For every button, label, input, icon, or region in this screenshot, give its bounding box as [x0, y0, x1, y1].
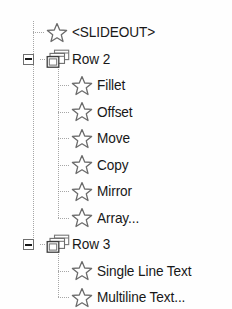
tree-row-label: Multiline Text... — [97, 289, 185, 305]
tree-elbow — [58, 165, 70, 166]
tree-elbow — [40, 244, 45, 245]
tree-elbow — [58, 191, 70, 192]
tree-row-label: Mirror — [97, 183, 132, 199]
tree-elbow — [58, 297, 70, 298]
tree-row-label: <SLIDEOUT> — [72, 24, 155, 40]
minus-box-icon[interactable] — [23, 54, 34, 65]
tree-elbow — [58, 218, 70, 219]
tree-row-label: Offset — [97, 104, 133, 120]
minus-box-icon[interactable] — [23, 239, 34, 250]
tree-row-label: Move — [97, 130, 130, 146]
star-icon — [71, 128, 93, 149]
tree-row-label: Row 3 — [72, 236, 110, 252]
folder-window-icon — [46, 49, 70, 69]
tree-row-label: Copy — [97, 157, 128, 173]
tree-elbow — [58, 138, 70, 139]
minus-glyph — [25, 244, 32, 246]
star-icon — [71, 287, 93, 308]
folder-window-icon — [46, 234, 70, 254]
star-icon — [71, 75, 93, 96]
tree-elbow — [58, 85, 70, 86]
star-icon — [71, 181, 93, 202]
minus-glyph — [25, 58, 32, 60]
tree-rail-children — [58, 250, 59, 297]
star-icon — [71, 154, 93, 175]
tree-elbow — [58, 112, 70, 113]
star-icon — [46, 22, 68, 43]
star-icon — [71, 260, 93, 281]
tree-row-label: Array... — [97, 210, 139, 226]
tree-elbow — [33, 32, 45, 33]
star-icon — [71, 207, 93, 228]
tree-rail-children — [58, 65, 59, 218]
tree-elbow — [58, 271, 70, 272]
tree-row-label: Row 2 — [72, 51, 110, 67]
tree-row-label: Single Line Text — [97, 263, 191, 279]
star-icon — [71, 101, 93, 122]
tree-view[interactable]: <SLIDEOUT>Row 2FilletOffsetMoveCopyMirro… — [0, 0, 232, 309]
tree-elbow — [40, 59, 45, 60]
tree-row-label: Fillet — [97, 77, 125, 93]
